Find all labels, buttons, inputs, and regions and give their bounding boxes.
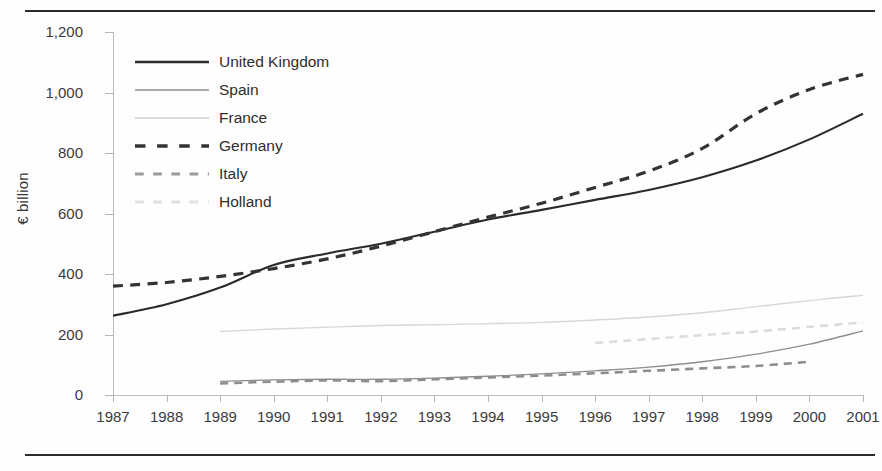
y-tick-label: 1,000 (0, 84, 83, 101)
x-tick-label: 1993 (404, 408, 464, 425)
y-tick-label: 600 (0, 205, 83, 222)
figure-page: € billion 02004006008001,0001,200 198719… (0, 0, 882, 471)
y-tick (105, 214, 113, 215)
x-tick-label: 1997 (619, 408, 679, 425)
x-tick (327, 395, 328, 402)
y-tick-label: 0 (0, 386, 83, 403)
y-tick (105, 153, 113, 154)
legend-line-swatch-icon (133, 111, 211, 125)
legend-line-swatch-icon (133, 55, 211, 69)
chart-legend: United KingdomSpainFranceGermanyItalyHol… (133, 48, 383, 216)
legend-label: Italy (219, 165, 247, 183)
legend-line-swatch-icon (133, 167, 211, 181)
x-tick (756, 395, 757, 402)
bottom-rule (25, 454, 875, 456)
x-tick (595, 395, 596, 402)
legend-label: Holland (219, 193, 272, 211)
legend-label: France (219, 109, 267, 127)
x-tick (167, 395, 168, 402)
y-tick (105, 335, 113, 336)
legend-item[interactable]: Holland (133, 188, 383, 216)
x-tick-label: 1996 (565, 408, 625, 425)
x-tick-label: 1992 (351, 408, 411, 425)
x-tick (381, 395, 382, 402)
x-tick-label: 1994 (458, 408, 518, 425)
x-tick-label: 1990 (244, 408, 304, 425)
x-tick (434, 395, 435, 402)
y-tick-label: 200 (0, 326, 83, 343)
y-tick-label: 400 (0, 265, 83, 282)
legend-item[interactable]: Spain (133, 76, 383, 104)
x-tick (702, 395, 703, 402)
legend-line-swatch-icon (133, 195, 211, 209)
x-tick-label: 2000 (779, 408, 839, 425)
series-line (220, 295, 863, 331)
legend-item[interactable]: France (133, 104, 383, 132)
x-tick-label: 1991 (297, 408, 357, 425)
x-tick-label: 1999 (726, 408, 786, 425)
series-line (220, 331, 863, 382)
legend-label: Spain (219, 81, 259, 99)
x-tick (220, 395, 221, 402)
y-tick-label: 1,200 (0, 23, 83, 40)
x-tick (809, 395, 810, 402)
x-tick (649, 395, 650, 402)
legend-label: United Kingdom (219, 53, 329, 71)
x-tick (488, 395, 489, 402)
legend-item[interactable]: United Kingdom (133, 48, 383, 76)
series-line (595, 322, 863, 343)
x-tick-label: 2001 (833, 408, 882, 425)
legend-line-swatch-icon (133, 139, 211, 153)
y-tick (105, 32, 113, 33)
legend-item[interactable]: Germany (133, 132, 383, 160)
y-tick (105, 274, 113, 275)
chart-figure: € billion 02004006008001,0001,200 198719… (0, 18, 882, 448)
legend-label: Germany (219, 137, 283, 155)
top-rule (25, 10, 875, 12)
x-tick-label: 1988 (137, 408, 197, 425)
series-line (220, 362, 809, 384)
x-tick (113, 395, 114, 402)
x-tick (274, 395, 275, 402)
y-tick-label: 800 (0, 144, 83, 161)
legend-line-swatch-icon (133, 83, 211, 97)
x-tick-label: 1989 (190, 408, 250, 425)
x-tick-label: 1987 (83, 408, 143, 425)
y-tick (105, 395, 113, 396)
legend-item[interactable]: Italy (133, 160, 383, 188)
y-tick (105, 93, 113, 94)
x-tick-label: 1995 (512, 408, 572, 425)
x-tick (542, 395, 543, 402)
x-tick (863, 395, 864, 402)
x-tick-label: 1998 (672, 408, 732, 425)
